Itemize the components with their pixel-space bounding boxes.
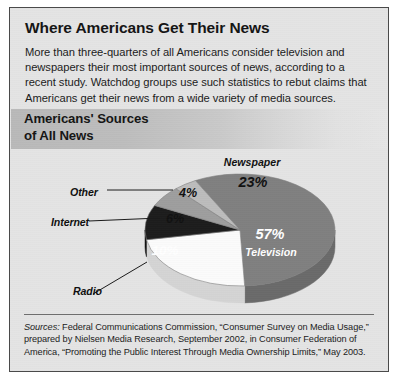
slice-value-other: 4% <box>178 186 197 200</box>
slice-value-radio: 10% <box>151 243 178 258</box>
callout-label-radio: Radio <box>73 285 102 297</box>
chart-title: Americans' Sources of All News <box>24 111 234 144</box>
chart-title-line-1: Americans' Sources <box>24 111 148 126</box>
chart-title-line-2: of All News <box>24 128 94 143</box>
source-note: Sources: Federal Communications Commissi… <box>24 321 376 358</box>
header-block: Where Americans Get Their News More than… <box>10 8 388 106</box>
source-divider <box>24 314 374 315</box>
page-title: Where Americans Get Their News <box>25 19 373 36</box>
callout-label-other: Other <box>70 186 98 198</box>
slice-name-television: Television <box>245 246 297 258</box>
slice-value-internet: 6% <box>166 212 184 226</box>
slice-name-newspaper: Newspaper <box>224 156 281 168</box>
slice-value-television: 57% <box>255 226 284 242</box>
slice-value-newspaper: 23% <box>237 174 267 190</box>
source-text: Federal Communications Commission, “Cons… <box>24 322 369 357</box>
infographic-panel: Where Americans Get Their News More than… <box>9 7 389 372</box>
intro-paragraph: More than three-quarters of all American… <box>25 45 373 106</box>
callout-label-internet: Internet <box>51 216 89 228</box>
source-label: Sources: <box>24 322 60 332</box>
